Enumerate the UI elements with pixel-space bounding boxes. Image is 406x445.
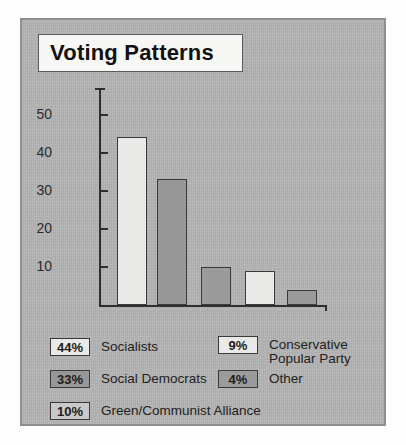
y-tick-label: 30	[18, 182, 52, 198]
chart-panel: Voting Patterns 5040302010 44%Socialists…	[20, 18, 386, 426]
y-tick-label: 20	[18, 220, 52, 236]
legend-swatch: 10%	[50, 402, 90, 420]
legend-item[interactable]: 44%Socialists	[50, 338, 158, 356]
legend-swatch: 9%	[218, 336, 258, 354]
y-tick-label: 50	[18, 106, 52, 122]
y-tick-label: 40	[18, 144, 52, 160]
bar-social-democrats	[157, 179, 187, 305]
y-tick-20	[101, 228, 108, 230]
bar-green-communist	[201, 267, 231, 305]
legend-label: Green/Communist Alliance	[101, 402, 261, 418]
page-title: Voting Patterns	[39, 40, 214, 66]
bar-conservative	[245, 271, 275, 305]
legend-item[interactable]: 9%Conservative Popular Party	[218, 336, 351, 366]
legend-label: Conservative Popular Party	[269, 336, 351, 366]
legend-label: Socialists	[101, 338, 158, 354]
legend-item[interactable]: 10%Green/Communist Alliance	[50, 402, 261, 420]
bar-socialists	[117, 137, 147, 305]
y-tick-10	[101, 266, 108, 268]
legend-label: Social Democrats	[101, 370, 207, 386]
chart-legend: 44%Socialists33%Social Democrats10%Green…	[22, 318, 388, 426]
legend-item[interactable]: 33%Social Democrats	[50, 370, 207, 388]
y-tick-40	[101, 152, 108, 154]
x-axis-line	[99, 305, 327, 307]
y-tick-label: 10	[18, 258, 52, 274]
y-axis-cap	[95, 88, 105, 90]
legend-swatch: 4%	[218, 370, 258, 388]
legend-swatch: 33%	[50, 370, 90, 388]
x-axis-end-tick	[325, 305, 327, 311]
legend-swatch: 44%	[50, 338, 90, 356]
y-axis-line	[99, 88, 101, 307]
chart-title-box: Voting Patterns	[38, 34, 243, 72]
legend-item[interactable]: 4%Other	[218, 370, 303, 388]
figure-canvas: Voting Patterns 5040302010 44%Socialists…	[0, 0, 406, 445]
bar-other	[287, 290, 317, 305]
y-tick-30	[101, 190, 108, 192]
y-tick-50	[101, 114, 108, 116]
legend-label: Other	[269, 370, 303, 386]
